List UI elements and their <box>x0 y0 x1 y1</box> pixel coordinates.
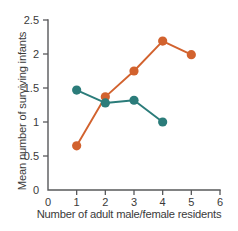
series-line <box>77 41 192 146</box>
data-point <box>72 85 81 94</box>
data-series <box>72 36 196 150</box>
data-point <box>129 96 138 105</box>
data-point <box>72 141 81 150</box>
chart-container: Mean number of surviving infants Number … <box>0 0 238 231</box>
data-point <box>129 66 138 75</box>
x-tick-label: 5 <box>188 196 194 208</box>
x-tick-label: 6 <box>217 196 223 208</box>
x-tick-label: 1 <box>74 196 80 208</box>
x-tick-label: 0 <box>45 196 51 208</box>
x-tick-label: 4 <box>160 196 166 208</box>
y-tick-label: 1.5 <box>24 82 39 94</box>
series-line <box>77 90 163 122</box>
y-tick-label: 0 <box>33 184 39 196</box>
x-tick-label: 2 <box>102 196 108 208</box>
data-point <box>101 98 110 107</box>
y-tick-label: 0.5 <box>24 150 39 162</box>
x-tick-label: 3 <box>131 196 137 208</box>
axes <box>48 20 220 190</box>
tick-labels: 012345600.511.522.5 <box>24 14 223 208</box>
data-point <box>187 50 196 59</box>
plot-area: 012345600.511.522.5 <box>0 0 238 231</box>
data-point <box>158 36 167 45</box>
y-tick-label: 1 <box>33 116 39 128</box>
data-point <box>158 117 167 126</box>
y-tick-label: 2.5 <box>24 14 39 26</box>
tick-marks <box>43 20 220 195</box>
y-tick-label: 2 <box>33 48 39 60</box>
